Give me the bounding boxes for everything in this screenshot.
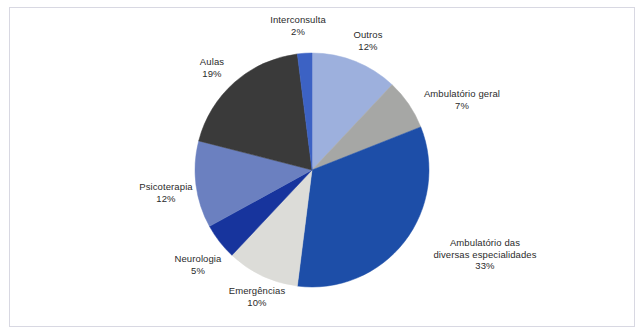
pie-label-emergencias: Emergências 10%: [207, 285, 307, 308]
pie-label-ambulatorio-geral-name: Ambulatório geral: [404, 88, 520, 100]
pie-label-ambulatorio-especialidades-line1: Ambulatório das: [415, 237, 555, 249]
pie-label-aulas: Aulas 19%: [177, 56, 247, 79]
pie-label-neurologia-value: 5%: [153, 265, 243, 277]
pie-chart-area: [0, 0, 644, 336]
pie-label-neurologia-name: Neurologia: [153, 253, 243, 265]
pie-label-ambulatorio-especialidades: Ambulatório das diversas especialidades …: [415, 237, 555, 272]
pie-label-aulas-value: 19%: [177, 68, 247, 80]
pie-label-outros-name: Outros: [333, 29, 403, 41]
pie-label-psicoterapia: Psicoterapia 12%: [118, 181, 214, 204]
pie-label-outros-value: 12%: [333, 41, 403, 53]
pie-label-aulas-name: Aulas: [177, 56, 247, 68]
pie-slices-group: [195, 53, 429, 287]
pie-label-psicoterapia-name: Psicoterapia: [118, 181, 214, 193]
pie-label-psicoterapia-value: 12%: [118, 193, 214, 205]
pie-label-ambulatorio-especialidades-line2: diversas especialidades: [415, 249, 555, 261]
pie-label-interconsulta-name: Interconsulta: [243, 14, 353, 26]
pie-label-outros: Outros 12%: [333, 29, 403, 52]
pie-label-ambulatorio-especialidades-value: 33%: [415, 260, 555, 272]
pie-label-ambulatorio-geral: Ambulatório geral 7%: [404, 88, 520, 111]
pie-label-emergencias-name: Emergências: [207, 285, 307, 297]
figure-root: Interconsulta 2% Outros 12% Ambulatório …: [0, 0, 644, 336]
pie-label-ambulatorio-geral-value: 7%: [404, 100, 520, 112]
pie-chart-svg: [0, 0, 644, 336]
pie-label-emergencias-value: 10%: [207, 297, 307, 309]
pie-label-neurologia: Neurologia 5%: [153, 253, 243, 276]
